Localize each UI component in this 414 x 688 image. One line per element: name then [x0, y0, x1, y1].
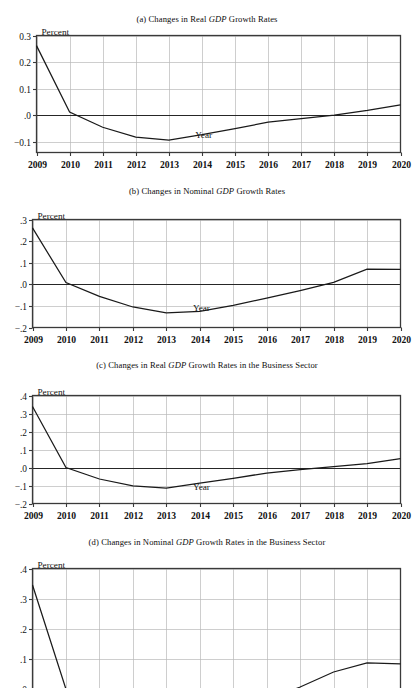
panel-a-xtick-label: 2011	[94, 159, 113, 170]
panel-a-xtick-label: 2017	[292, 159, 311, 170]
panel-b-ytick-label: .3	[20, 216, 27, 226]
panel-a-xtick-label: 2019	[358, 159, 377, 170]
panel-c-ytick-label: .3	[20, 410, 27, 420]
panel-d-plot: Percent.4.3.2.1.0−.1	[0, 548, 414, 688]
panel-b-plot: Percent.3.2.1.0−.1−.22009201020112012201…	[0, 197, 414, 355]
panel-d-title-post: Growth Rates in the Business Sector	[194, 537, 326, 547]
panel-c-xtick-label: 2010	[57, 510, 76, 521]
chart-panel-c: (c) Changes in Real GDP Growth Rates in …	[0, 359, 414, 535]
panel-c-ytick-label: .4	[20, 392, 27, 402]
panel-c-xtick-label: 2012	[124, 510, 143, 521]
panel-a-ytick-label: 0.1	[19, 85, 31, 95]
panel-b-title-pre: (b) Changes in Nominal	[129, 186, 216, 196]
panel-c-data-line	[33, 406, 401, 488]
panel-d-ytick-label: .2	[20, 625, 27, 635]
panel-b-xtick-label: 2018	[325, 334, 344, 345]
panel-a-xtick-label: 2014	[193, 159, 212, 170]
panel-a-ytick-label: 0.2	[19, 58, 31, 68]
panel-b-xtick-label: 2010	[57, 334, 76, 345]
panel-b-xtick-label: 2016	[258, 334, 277, 345]
panel-b-xtick-label: 2009	[24, 334, 43, 345]
panel-b-ytick-label: .2	[20, 237, 27, 247]
chart-panel-d: (d) Changes in Nominal GDP Growth Rates …	[0, 535, 414, 688]
panel-a-ytick-label: 0.3	[19, 32, 31, 42]
panel-a-title: (a) Changes in Real GDP Growth Rates	[0, 0, 414, 25]
panel-b-xtick-label: 2020	[392, 334, 411, 345]
panel-b-ytick-label: −.1	[15, 302, 28, 312]
panel-c-xtick-label: 2013	[157, 510, 176, 521]
panel-d-title: (d) Changes in Nominal GDP Growth Rates …	[0, 535, 414, 548]
panel-b-title-post: Growth Rates	[234, 186, 285, 196]
panel-c-title-pre: (c) Changes in Real	[96, 360, 168, 370]
panel-c-xtick-label: 2011	[90, 510, 109, 521]
panel-c-plot: Percent.4.3.2.1.0−.1−.220092010201120122…	[0, 371, 414, 531]
panel-b-plot-frame	[33, 220, 401, 328]
panel-a-svg: Percent0.30.20.1.0−0.1200920102011201220…	[0, 25, 414, 181]
panel-a-plot-frame	[37, 36, 401, 153]
chart-panel-a: (a) Changes in Real GDP Growth Rates Per…	[0, 0, 414, 184]
panel-a-xtick-label: 2010	[61, 159, 80, 170]
panel-b-ytick-label: −.2	[15, 324, 28, 334]
panel-a-xtick-label: 2013	[160, 159, 179, 170]
panel-d-plot-frame	[33, 569, 401, 688]
panel-b-xtick-label: 2014	[191, 334, 210, 345]
panel-d-title-pre: (d) Changes in Nominal	[89, 537, 176, 547]
panel-c-xtick-label: 2018	[325, 510, 344, 521]
panel-c-ytick-label: −.2	[15, 500, 28, 510]
panel-c-xtick-label: 2016	[258, 510, 277, 521]
panel-a-xtick-label: 2015	[226, 159, 245, 170]
panel-c-title-post: Growth Rates in the Business Sector	[186, 360, 318, 370]
panel-b-xtick-label: 2015	[224, 334, 243, 345]
panel-c-xtick-label: 2019	[358, 510, 377, 521]
panel-b-xtick-label: 2012	[124, 334, 143, 345]
panel-a-title-pre: (a) Changes in Real	[136, 14, 208, 24]
panel-b-data-line	[33, 228, 401, 313]
panel-c-ytick-label: −.1	[15, 482, 28, 492]
panel-a-title-gdp: GDP	[209, 14, 227, 24]
panel-a-title-post: Growth Rates	[227, 14, 278, 24]
panel-a-xtick-label: 2009	[28, 159, 47, 170]
panel-b-xtick-label: 2019	[358, 334, 377, 345]
panel-a-plot: Percent0.30.20.1.0−0.1200920102011201220…	[0, 25, 414, 181]
panel-c-ytick-label: .2	[20, 428, 27, 438]
panel-d-ytick-label: .4	[20, 565, 27, 575]
panel-a-xtick-label: 2018	[325, 159, 344, 170]
panel-b-ytick-label: .1	[20, 259, 27, 269]
panel-c-xtick-label: 2009	[24, 510, 43, 521]
panel-b-xtick-label: 2011	[90, 334, 109, 345]
panel-c-xtick-label: 2017	[291, 510, 310, 521]
panel-d-data-line	[33, 585, 401, 688]
chart-panel-b: (b) Changes in Nominal GDP Growth Rates …	[0, 184, 414, 359]
panel-d-svg: Percent.4.3.2.1.0−.1	[0, 548, 414, 688]
panel-c-ytick-label: .0	[20, 464, 27, 474]
panel-c-xtick-label: 2020	[392, 510, 411, 521]
panel-b-xtick-label: 2017	[291, 334, 310, 345]
panel-b-svg: Percent.3.2.1.0−.1−.22009201020112012201…	[0, 197, 414, 355]
panel-d-ytick-label: .3	[20, 595, 27, 605]
panel-c-ytick-label: .1	[20, 446, 27, 456]
panel-c-plot-frame	[33, 396, 401, 504]
panel-b-title-gdp: GDP	[216, 186, 234, 196]
panel-a-data-line	[37, 46, 401, 140]
figure-page: (a) Changes in Real GDP Growth Rates Per…	[0, 0, 414, 688]
panel-c-title: (c) Changes in Real GDP Growth Rates in …	[0, 359, 414, 371]
panel-b-ytick-label: .0	[20, 280, 27, 290]
panel-a-xtick-label: 2020	[392, 159, 411, 170]
panel-a-xtick-label: 2016	[259, 159, 278, 170]
panel-a-ytick-label: .0	[24, 111, 31, 121]
panel-c-svg: Percent.4.3.2.1.0−.1−.220092010201120122…	[0, 371, 414, 531]
panel-c-xtick-label: 2015	[224, 510, 243, 521]
panel-c-title-gdp: GDP	[168, 360, 186, 370]
panel-d-title-gdp: GDP	[176, 537, 194, 547]
panel-a-xtick-label: 2012	[127, 159, 146, 170]
panel-c-xtick-label: 2014	[191, 510, 210, 521]
panel-a-ytick-label: −0.1	[14, 138, 31, 148]
panel-d-ytick-label: .1	[20, 655, 27, 665]
panel-b-title: (b) Changes in Nominal GDP Growth Rates	[0, 184, 414, 197]
panel-b-xtick-label: 2013	[157, 334, 176, 345]
